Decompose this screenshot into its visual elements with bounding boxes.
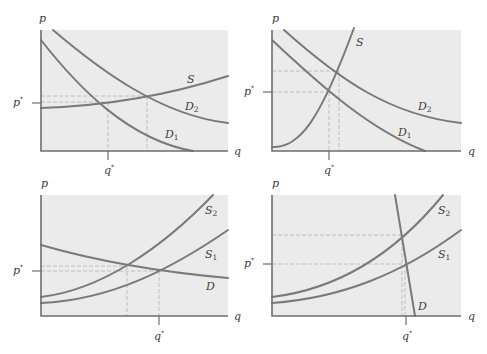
- panel-top-left: p q p* q* S D2 D1: [13, 12, 241, 177]
- supply-demand-figure: p q p* q* S D2 D1 p q p* q* S D2 D1 p q: [0, 0, 487, 354]
- panel-bottom-right: p q p* q* S2 S1 D: [244, 177, 475, 343]
- curve-label-d: D: [205, 280, 215, 293]
- x-axis-label: q: [234, 310, 241, 323]
- equilibrium-price-label: p*: [244, 256, 254, 270]
- equilibrium-quantity-label: q*: [104, 163, 114, 177]
- y-axis-label: p: [272, 177, 279, 190]
- equilibrium-price-label: p*: [244, 84, 254, 98]
- panel-top-right: p q p* q* S D2 D1: [244, 12, 475, 177]
- curve-label-s: S: [187, 73, 195, 86]
- plot-area: [272, 195, 461, 316]
- panel-bottom-left: p q p* q* S2 S1 D: [13, 177, 241, 343]
- x-axis-label: q: [468, 145, 475, 158]
- y-axis-label: p: [272, 12, 279, 25]
- equilibrium-price-label: p*: [13, 95, 23, 109]
- y-axis-label: p: [41, 177, 48, 190]
- equilibrium-quantity-label: q*: [402, 329, 412, 343]
- plot-area: [41, 195, 228, 316]
- curve-label-d: D: [417, 300, 427, 313]
- equilibrium-quantity-label: q*: [324, 163, 334, 177]
- x-axis-label: q: [468, 310, 475, 323]
- plot-area: [272, 30, 461, 151]
- equilibrium-price-label: p*: [13, 263, 23, 277]
- y-axis-label: p: [39, 12, 46, 25]
- equilibrium-quantity-label: q*: [154, 329, 164, 343]
- x-axis-label: q: [234, 145, 241, 158]
- curve-label-s: S: [356, 36, 364, 49]
